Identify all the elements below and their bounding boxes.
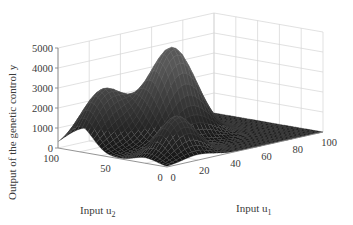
z-tick-label: 3000 <box>32 83 53 94</box>
grid-line <box>58 33 214 68</box>
u1-tick-label: 100 <box>321 137 337 148</box>
grid-line <box>58 13 214 48</box>
grid-line <box>214 53 323 72</box>
y-axis-label-sub: 2 <box>111 210 115 219</box>
z-tick-label: 1000 <box>32 123 53 134</box>
u2-tick-label: 100 <box>43 153 59 164</box>
z-tick-label: 2000 <box>32 103 53 114</box>
u2-tick-label: 50 <box>100 163 111 174</box>
grid-line <box>214 33 323 52</box>
u1-tick-label: 60 <box>261 151 272 162</box>
surface-plot: 010002000300040005000020406080100050100 … <box>0 0 353 225</box>
u1-tick-label: 80 <box>293 144 304 155</box>
y-axis-label: Input u2 <box>80 204 115 219</box>
grid-line <box>214 13 323 32</box>
u1-tick-label: 40 <box>230 158 241 169</box>
u1-tick-label: 20 <box>199 165 210 176</box>
x-axis-label-text: Input u <box>236 202 268 214</box>
z-tick-label: 0 <box>48 143 53 154</box>
grid-line <box>214 73 323 92</box>
z-tick-label: 5000 <box>32 43 53 54</box>
z-tick-label: 4000 <box>32 63 53 74</box>
u1-tick-label: 0 <box>170 172 175 183</box>
grid-line <box>214 93 323 112</box>
z-axis-label: Output of the genetic control y <box>6 64 18 200</box>
x-axis-label: Input u1 <box>236 202 271 217</box>
u2-tick-label: 0 <box>157 172 162 183</box>
y-axis-label-text: Input u <box>80 204 112 216</box>
x-axis-label-sub: 1 <box>267 208 271 217</box>
